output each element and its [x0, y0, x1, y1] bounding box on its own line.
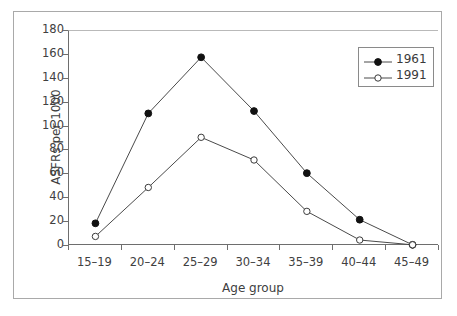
data-point-filled: [198, 54, 205, 61]
data-point-filled: [145, 110, 152, 117]
x-axis-tick-mark: [227, 245, 228, 250]
data-point-filled: [303, 170, 310, 177]
filled-circle-icon: [363, 53, 393, 65]
x-axis-tick-mark: [174, 245, 175, 250]
x-axis-tick-label: 35–39: [288, 256, 323, 268]
open-circle-icon: [363, 69, 393, 81]
x-axis-tick-labels: 15–1920–2425–2930–3435–3940–4445–49: [68, 256, 438, 272]
data-point-open: [304, 208, 310, 214]
data-point-open: [251, 157, 257, 163]
x-axis-tick-mark: [121, 245, 122, 250]
legend-label: 1991: [396, 68, 427, 82]
x-axis-tick-label: 30–34: [235, 256, 270, 268]
legend: 1961 1991: [358, 47, 434, 87]
figure: ASFRs per 1000 020406080100120140160180 …: [0, 0, 457, 316]
data-point-filled: [92, 220, 99, 227]
x-axis-tick-mark: [332, 245, 333, 250]
legend-item: 1991: [363, 67, 427, 83]
x-axis-title: Age group: [68, 281, 438, 295]
data-point-open: [198, 134, 204, 140]
x-axis-tick-mark: [279, 245, 280, 250]
legend-item: 1961: [363, 51, 427, 67]
x-axis-tick-label: 45–49: [394, 256, 429, 268]
data-point-open: [145, 184, 151, 190]
data-point-filled: [356, 216, 363, 223]
data-point-filled: [251, 108, 258, 115]
x-axis-tick-mark: [438, 245, 439, 250]
data-point-open: [92, 233, 98, 239]
x-axis-tick-mark: [385, 245, 386, 250]
x-axis-tick-label: 20–24: [130, 256, 165, 268]
legend-label: 1961: [396, 52, 427, 66]
x-axis-tick-label: 15–19: [77, 256, 112, 268]
x-axis-tick-mark: [68, 245, 69, 250]
x-axis-tick-marks: [68, 245, 439, 251]
data-point-open: [357, 237, 363, 243]
y-axis-tick-marks: [0, 30, 68, 246]
x-axis-tick-label: 40–44: [341, 256, 376, 268]
series-line: [95, 137, 412, 245]
x-axis-tick-label: 25–29: [183, 256, 218, 268]
